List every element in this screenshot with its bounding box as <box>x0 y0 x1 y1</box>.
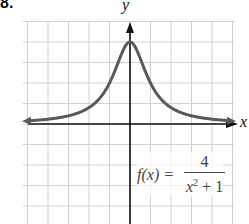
y-axis-label: y <box>122 0 129 14</box>
function-formula: f(x) = 4 x2 + 1 <box>137 152 223 197</box>
function-curve <box>30 42 228 121</box>
formula-denominator: x2 + 1 <box>186 173 223 197</box>
formula-lhs: f(x) = <box>137 166 174 184</box>
formula-numerator: 4 <box>184 152 225 173</box>
x-axis-label: x <box>240 113 247 131</box>
formula-fraction: 4 x2 + 1 <box>186 152 223 197</box>
